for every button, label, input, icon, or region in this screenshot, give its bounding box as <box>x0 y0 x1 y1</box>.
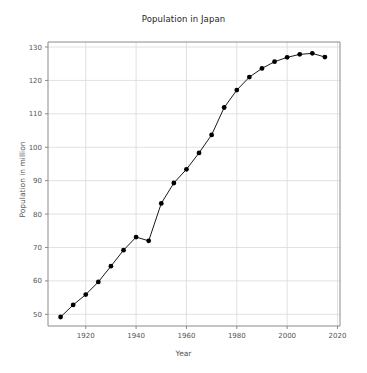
svg-text:100: 100 <box>29 144 42 152</box>
plot-area: 5060708090100110120130192019401960198020… <box>0 0 367 373</box>
svg-text:1940: 1940 <box>127 332 145 340</box>
svg-text:50: 50 <box>33 311 42 319</box>
svg-text:60: 60 <box>33 277 42 285</box>
svg-text:1980: 1980 <box>228 332 246 340</box>
svg-text:2000: 2000 <box>278 332 296 340</box>
axes-frame <box>48 42 340 326</box>
gridlines <box>48 42 340 326</box>
svg-text:1960: 1960 <box>178 332 196 340</box>
svg-text:90: 90 <box>33 177 42 185</box>
chart-figure: Population in Japan 50607080901001101201… <box>0 0 367 373</box>
svg-text:110: 110 <box>29 110 42 118</box>
axis-tick-labels: 5060708090100110120130192019401960198020… <box>29 44 347 340</box>
svg-text:80: 80 <box>33 211 42 219</box>
svg-text:120: 120 <box>29 77 42 85</box>
data-line <box>61 53 325 317</box>
y-axis-label: Population in million <box>18 120 27 240</box>
svg-text:1920: 1920 <box>77 332 95 340</box>
svg-text:70: 70 <box>33 244 42 252</box>
svg-text:130: 130 <box>29 44 42 52</box>
axis-ticks <box>45 47 337 329</box>
svg-text:2020: 2020 <box>329 332 347 340</box>
x-axis-label: Year <box>0 349 367 358</box>
